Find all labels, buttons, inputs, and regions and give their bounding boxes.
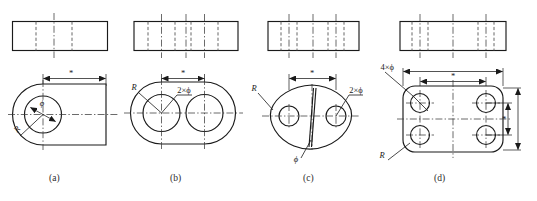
slot-diameter-label: ϕ — [294, 154, 299, 164]
panel-c: * 2×ϕ ϕ R — [250, 14, 363, 164]
panel-b: * 2×ϕ R — [124, 14, 243, 149]
panel-b-front-view — [134, 14, 238, 58]
panel-b-plan-view: 2×ϕ R — [124, 78, 243, 149]
engineering-drawing-sheet: .obj { fill:none; stroke:#1a1a1a; stroke… — [0, 0, 537, 201]
hole-diameter-label: ϕ — [40, 98, 45, 108]
panel-a-width-dimension: * — [43, 68, 106, 86]
radius-leader-line — [388, 143, 410, 160]
front-view-outline — [13, 22, 108, 51]
caption-a: (a) — [49, 173, 60, 183]
hole-diameter-leader-ext — [385, 72, 413, 96]
panel-c-plan-view: 2×ϕ ϕ R — [250, 83, 363, 164]
caption-b: (b) — [170, 173, 181, 183]
panel-d-front-view — [400, 14, 506, 58]
caption-d: (d) — [434, 173, 445, 183]
radius-label: R — [250, 83, 257, 93]
drawing-canvas: .obj { fill:none; stroke:#1a1a1a; stroke… — [0, 0, 537, 201]
panel-d-plan-view: 4×ϕ R — [378, 62, 510, 160]
panel-c-front-view — [268, 14, 359, 58]
front-view-outline — [268, 22, 359, 51]
spacing-dimension-label: * — [310, 68, 314, 78]
side-hole-diameter-label: 2×ϕ — [349, 85, 363, 95]
hole-diameter-label: 2×ϕ — [177, 85, 191, 95]
panel-a-plan-view: ϕ R — [8, 80, 118, 150]
vertical-spacing-label: * — [502, 114, 506, 124]
panel-a-front-view — [13, 13, 108, 58]
horizontal-spacing-label: * — [451, 71, 455, 81]
radius-leader-line — [258, 93, 273, 110]
width-dimension-label: * — [69, 68, 73, 78]
panel-d: * 4×ϕ R — [378, 14, 521, 160]
radius-label: R — [130, 82, 137, 92]
spacing-dimension-label: * — [181, 68, 185, 78]
radius-label: R — [378, 150, 385, 160]
caption-c: (c) — [303, 173, 314, 183]
hole-diameter-label: 4×ϕ — [380, 62, 394, 72]
panel-a: * ϕ R — [8, 13, 118, 150]
